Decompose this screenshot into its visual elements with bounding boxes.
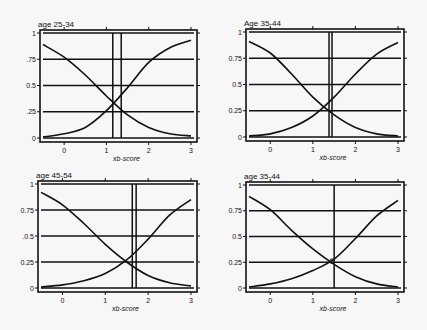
- y-tick-label: 0.25: [228, 107, 242, 114]
- curve-decreasing: [249, 196, 398, 287]
- curve-decreasing: [41, 192, 191, 286]
- y-tick-label: 1: [30, 181, 34, 188]
- panel-title: age 45-54: [36, 171, 73, 180]
- chart-grid: age 25-340.250.5.7510123xb-scoreAge 35-4…: [0, 0, 427, 330]
- y-tick-label: 0.75: [228, 55, 242, 62]
- x-tick-label: 2: [353, 146, 357, 153]
- x-tick-label: 2: [353, 297, 357, 304]
- curve-increasing: [249, 43, 398, 136]
- x-axis-label: xb-score: [112, 155, 140, 162]
- x-axis-label: xb-score: [319, 154, 347, 161]
- y-tick-label: 0.5: [232, 233, 242, 240]
- x-axis-label: xb-score: [319, 305, 347, 312]
- x-tick-label: 1: [311, 297, 315, 304]
- y-tick-label: 0.5: [26, 82, 36, 89]
- x-tick-label: 2: [146, 297, 150, 304]
- chart-panel-1: age 25-340.250.5.7510123xb-score: [26, 20, 200, 162]
- y-tick-label: 0.25: [228, 259, 242, 266]
- chart-panel-2: Age 35-4400.250.50.7510123xb-score: [228, 19, 407, 161]
- x-tick-label: 3: [189, 297, 193, 304]
- curve-increasing: [249, 200, 398, 287]
- y-tick-label: 1: [238, 29, 242, 36]
- x-tick-label: 3: [396, 297, 400, 304]
- x-tick-label: 1: [311, 146, 315, 153]
- panel-title: Age 35-44: [244, 19, 281, 28]
- y-tick-label: 0: [238, 285, 242, 292]
- x-tick-label: 0: [268, 146, 272, 153]
- y-tick-label: 0: [32, 135, 36, 142]
- y-tick-label: 1: [32, 30, 36, 37]
- chart-panel-4: age 35-4400.250.50.7510123xb-score: [228, 172, 407, 312]
- y-tick-label: 0.75: [20, 207, 34, 214]
- y-tick-label: 0: [30, 285, 34, 292]
- x-tick-label: 2: [147, 147, 151, 154]
- curve-decreasing: [43, 45, 191, 136]
- panel-title: age 35-44: [244, 172, 281, 181]
- y-tick-label: 0.25: [20, 259, 34, 266]
- y-tick-label: .75: [26, 56, 36, 63]
- curve-increasing: [43, 40, 191, 137]
- y-tick-label: .25: [26, 108, 36, 115]
- y-tick-label: 0: [238, 134, 242, 141]
- x-tick-label: 0: [60, 297, 64, 304]
- x-axis-label: xb-score: [111, 305, 139, 312]
- y-tick-label: 0.5: [232, 81, 242, 88]
- x-tick-label: 1: [104, 147, 108, 154]
- y-tick-label: 1: [238, 182, 242, 189]
- x-tick-label: 3: [189, 147, 193, 154]
- x-tick-label: 0: [268, 297, 272, 304]
- panel-title: age 25-34: [38, 20, 75, 29]
- curve-increasing: [41, 200, 191, 287]
- x-tick-label: 1: [103, 297, 107, 304]
- x-tick-label: 0: [62, 147, 66, 154]
- chart-panel-3: age 45-5400.25.0.50.7510123xb-score: [20, 171, 200, 312]
- y-tick-label: 0.75: [228, 207, 242, 214]
- x-tick-label: 3: [396, 146, 400, 153]
- y-tick-label: .0.5: [22, 233, 34, 240]
